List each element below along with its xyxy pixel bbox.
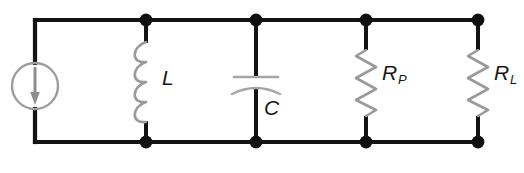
branch-leads-layer bbox=[146, 20, 478, 142]
node-bottom-capacitor bbox=[250, 136, 263, 149]
node-top-rp bbox=[360, 14, 373, 27]
resistor-l-label-text: R bbox=[494, 61, 509, 84]
current-source-symbol bbox=[12, 63, 58, 109]
capacitor-label: C bbox=[264, 97, 279, 118]
inductor-label: L bbox=[162, 67, 174, 88]
schematic-canvas bbox=[0, 0, 524, 173]
node-top-inductor bbox=[140, 14, 153, 27]
resistor-l-zigzag bbox=[468, 50, 488, 116]
inductor-coil bbox=[135, 42, 146, 122]
node-bottom-inductor bbox=[140, 136, 153, 149]
resistor-l-label-subscript: L bbox=[510, 72, 517, 87]
resistor-p-label-text: R bbox=[382, 61, 397, 84]
node-top-capacitor bbox=[250, 14, 263, 27]
resistor-p-zigzag bbox=[356, 50, 376, 116]
inductor-label-text: L bbox=[162, 66, 174, 89]
resistor-p-symbol bbox=[356, 50, 376, 116]
resistor-p-label: RP bbox=[382, 62, 407, 86]
inductor-symbol bbox=[135, 42, 146, 122]
node-bottom-rp bbox=[360, 136, 373, 149]
resistor-l-label: RL bbox=[494, 62, 517, 86]
node-top-rl bbox=[472, 14, 485, 27]
junction-nodes-layer bbox=[140, 14, 485, 149]
node-bottom-rl bbox=[472, 136, 485, 149]
capacitor-label-text: C bbox=[264, 96, 279, 119]
resistor-l-symbol bbox=[468, 50, 488, 116]
resistor-p-label-subscript: P bbox=[398, 72, 407, 87]
circuit-diagram: L C RP RL bbox=[0, 0, 524, 173]
current-source-arrow-head bbox=[30, 92, 40, 105]
